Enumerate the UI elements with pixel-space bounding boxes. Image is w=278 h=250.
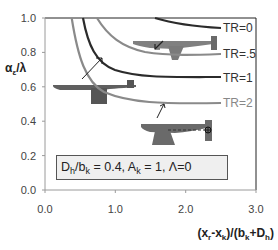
y-tick-label: 0.0: [21, 184, 36, 196]
x-tick-label: 1.0: [108, 203, 123, 215]
x-tick-label: 3.0: [248, 203, 263, 215]
y-axis-title: αε/λ: [5, 61, 27, 77]
arrow-to-tr2-icon: [157, 104, 165, 118]
y-tick-label: 1.0: [21, 12, 36, 24]
y-tick-label: 0.4: [21, 115, 36, 127]
x-tick-label: 2.0: [178, 203, 193, 215]
chart: 0.0 0.2 0.4 0.6 0.8 1.0 0.0 1.0 2.0 3.0 …: [0, 0, 278, 250]
y-tick-label: 0.6: [21, 81, 36, 93]
x-tick-label: 0.0: [37, 203, 52, 215]
series-label-tr1: TR=1: [223, 71, 253, 85]
y-tick-label: 0.2: [21, 150, 36, 162]
inset-sketch-3: [141, 120, 212, 145]
y-tick-label: 0.8: [21, 46, 36, 58]
series-label-tr2: TR=2: [223, 96, 253, 110]
inset-sketch-2: [133, 36, 217, 60]
parameter-annotation-box: Dh/bk = 0.4, Ak = 1, Λ=0: [56, 155, 228, 180]
curve-tr-0: [155, 18, 221, 28]
x-axis-title: (xr-xk)/(bk+Dh): [197, 226, 274, 242]
series-label-tr0: TR=0: [223, 21, 253, 35]
series-label-tr05: TR=.5: [223, 47, 256, 61]
